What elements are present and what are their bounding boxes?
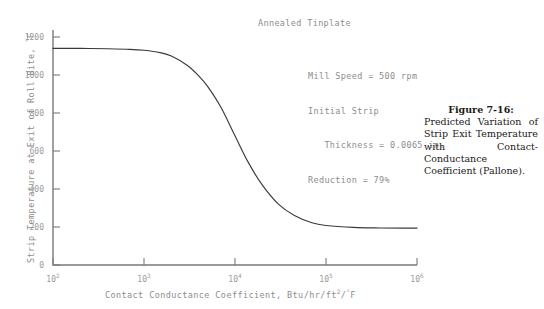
y-axis-ticks (53, 37, 60, 265)
degree-icon: ° (24, 38, 31, 42)
x-tick-mantissa: 10 (46, 275, 56, 284)
x-tick-label: 105 (311, 272, 341, 284)
x-tick-mantissa: 10 (137, 275, 147, 284)
x-tick-exponent: 6 (420, 272, 424, 279)
x-tick-exponent: 2 (56, 272, 60, 279)
y-axis-title: Strip Temperature at Exit of Roll Bite, … (24, 23, 36, 273)
figure-container: 0 200 400 600 800 1000 1200 102 103 104 … (0, 0, 544, 309)
x-axis-title-main: Contact Conductance Coefficient, Btu/hr/… (105, 290, 337, 300)
x-tick-exponent: 4 (238, 272, 242, 279)
x-tick-mantissa: 10 (319, 275, 329, 284)
x-tick-exponent: 5 (329, 272, 333, 279)
x-tick-label: 102 (38, 272, 68, 284)
x-tick-label: 106 (402, 272, 432, 284)
x-tick-mantissa: 10 (410, 275, 420, 284)
figure-caption-heading: Figure 7-16: (424, 104, 538, 116)
x-axis-title: Contact Conductance Coefficient, Btu/hr/… (105, 288, 356, 300)
x-tick-mantissa: 10 (228, 275, 238, 284)
figure-caption-body: Predicted Variation of Strip Exit Temper… (424, 116, 538, 177)
x-tick-exponent: 3 (147, 272, 151, 279)
x-axis-ticks (53, 258, 417, 265)
annotation-material: Annealed Tinplate (258, 18, 351, 28)
x-axis-title-end: F (350, 290, 356, 300)
x-tick-label: 104 (220, 272, 250, 284)
y-axis-title-end: F (26, 33, 36, 39)
annotation-mill-speed: Mill Speed = 500 rpm (308, 71, 445, 83)
x-tick-label: 103 (129, 272, 159, 284)
y-axis-title-main: Strip Temperature at Exit of Roll Bite, (26, 42, 36, 263)
figure-caption: Figure 7-16: Predicted Variation of Stri… (424, 104, 538, 177)
